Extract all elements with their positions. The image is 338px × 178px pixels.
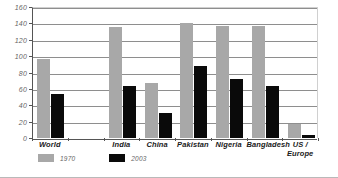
legend-swatch-1970-icon <box>38 154 54 162</box>
bar-group <box>140 8 176 138</box>
category-label-india: India <box>104 140 140 149</box>
bar-india-1970 <box>109 27 122 138</box>
bar-china-2003 <box>159 113 172 138</box>
bar-pakistan-1970 <box>180 23 193 138</box>
y-axis: 020406080100120140160 <box>0 0 32 145</box>
bar-group <box>105 8 141 138</box>
legend-item-2003: 2003 <box>109 154 146 162</box>
bar-india-2003 <box>123 86 136 138</box>
bar-group <box>283 8 319 138</box>
plot-area <box>32 7 318 138</box>
legend-swatch-2003-icon <box>109 154 125 162</box>
category-label-world: World <box>32 140 68 149</box>
legend-label-2003: 2003 <box>131 155 146 162</box>
bar-group <box>176 8 212 138</box>
category-label-bangladesh: Bangladesh <box>247 140 283 149</box>
bar-pakistan-2003 <box>194 66 207 138</box>
y-tick-label-100: 100 <box>15 53 27 60</box>
bar-group <box>212 8 248 138</box>
category-label-nigeria: Nigeria <box>211 140 247 149</box>
x-tick <box>318 138 319 141</box>
y-tick-label-120: 120 <box>15 36 27 43</box>
bar-world-2003 <box>51 94 64 138</box>
bar-bangladesh-2003 <box>266 86 279 138</box>
bar-nigeria-1970 <box>216 26 229 138</box>
bar-world-1970 <box>37 59 50 138</box>
chart-legend: 1970 2003 <box>38 154 147 162</box>
category-label-line: Europe <box>282 149 318 158</box>
x-tick <box>68 138 69 141</box>
category-label-us-europe: US /Europe <box>282 140 318 158</box>
category-label-pakistan: Pakistan <box>175 140 211 149</box>
bar-group <box>33 8 69 138</box>
y-tick-label-60: 60 <box>19 85 27 92</box>
y-tick-label-40: 40 <box>19 102 27 109</box>
bar-bangladesh-1970 <box>252 26 265 138</box>
bars-layer <box>33 8 317 138</box>
y-tick-label-160: 160 <box>15 4 27 11</box>
bar-group <box>69 8 105 138</box>
bar-us-europe-1970 <box>288 124 301 138</box>
category-label-china: China <box>139 140 175 149</box>
category-label-line: US / <box>282 140 318 149</box>
bar-chart: 020406080100120140160 WorldIndiaChinaPak… <box>0 0 338 178</box>
bar-group <box>248 8 284 138</box>
y-tick-label-20: 20 <box>19 118 27 125</box>
legend-label-1970: 1970 <box>60 155 75 162</box>
y-tick-label-80: 80 <box>19 69 27 76</box>
bar-nigeria-2003 <box>230 79 243 138</box>
y-tick-label-0: 0 <box>23 135 27 142</box>
bar-china-1970 <box>145 83 158 138</box>
bar-us-europe-2003 <box>302 135 315 138</box>
y-tick-label-140: 140 <box>15 20 27 27</box>
legend-item-1970: 1970 <box>38 154 75 162</box>
